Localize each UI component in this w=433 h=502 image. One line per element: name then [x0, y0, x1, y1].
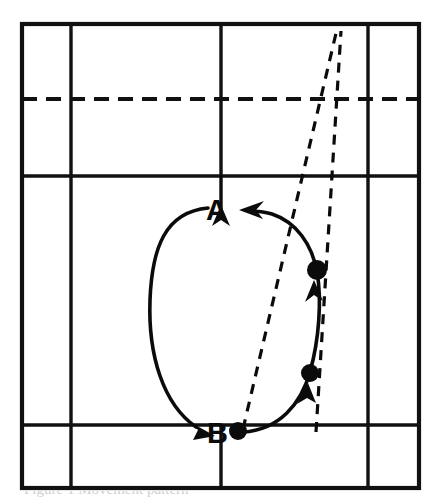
contact-dot-lower-right	[301, 364, 319, 382]
point-label-b: B	[207, 419, 227, 448]
shuttle-trajectory-upper-right	[316, 31, 341, 432]
figure-canvas: A B Figure 1 Movement pattern	[0, 0, 433, 502]
contact-dot-upper-right	[307, 260, 327, 280]
caption-strip: Figure 1 Movement pattern	[0, 491, 433, 502]
figure-caption: Figure 1 Movement pattern	[24, 491, 189, 498]
movement-path-a-to-b	[150, 208, 208, 427]
shuttle-trajectory-from-b	[243, 29, 337, 429]
contact-dot-at-b	[229, 422, 247, 440]
point-label-a: A	[206, 196, 226, 225]
